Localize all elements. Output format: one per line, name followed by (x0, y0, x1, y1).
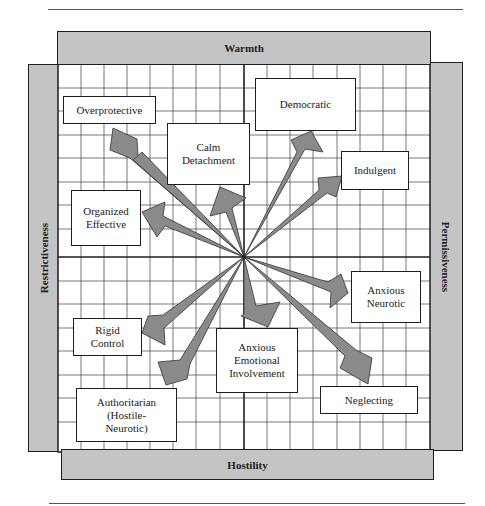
node-anxious-neurotic: Anxious Neurotic (351, 271, 421, 323)
node-authoritarian: Authoritarian (Hostile- Neurotic) (76, 388, 177, 442)
grid-with-arrows (0, 0, 485, 506)
node-rigid-control: Rigid Control (73, 318, 142, 356)
warmth-label: Warmth (224, 42, 264, 54)
warmth-band: Warmth (57, 31, 431, 65)
hostility-band: Hostility (61, 449, 434, 480)
node-democratic: Democratic (255, 78, 356, 131)
node-calm-detachment: Calm Detachment (167, 123, 250, 185)
node-neglecting: Neglecting (320, 386, 418, 414)
node-indulgent: Indulgent (341, 151, 409, 190)
hostility-label: Hostility (227, 459, 267, 471)
node-organized-effective: Organized Effective (71, 190, 141, 246)
node-anxious-emotional-involvement: Anxious Emotional Involvement (216, 328, 298, 393)
node-overprotective: Overprotective (63, 96, 156, 124)
